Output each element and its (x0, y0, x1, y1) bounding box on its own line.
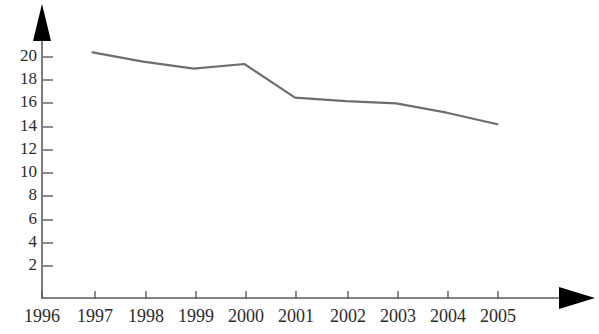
y-tick-label: 12 (20, 139, 37, 158)
chart-canvas: 20 18 16 14 12 10 8 6 4 2 1996 1 (0, 0, 599, 334)
x-tick-label: 2001 (278, 306, 314, 326)
x-tick-label: 2004 (430, 306, 466, 326)
y-tick-label: 4 (29, 232, 38, 251)
x-tick-label: 1999 (178, 306, 214, 326)
x-tick-label: 1998 (128, 306, 164, 326)
y-tick-label: 2 (29, 255, 38, 274)
x-tick-label: 2003 (380, 306, 416, 326)
y-axis-arrow-icon (33, 4, 51, 41)
y-axis-ticks (43, 57, 53, 266)
y-tick-label: 10 (20, 162, 37, 181)
line-chart: 20 18 16 14 12 10 8 6 4 2 1996 1 (0, 0, 599, 334)
x-tick-label: 1996 (24, 306, 60, 326)
x-tick-label: 1997 (77, 306, 113, 326)
data-line-series-1 (93, 52, 498, 124)
y-axis-tick-labels: 20 18 16 14 12 10 8 6 4 2 (20, 46, 38, 274)
y-tick-label: 16 (20, 92, 37, 111)
y-tick-label: 20 (20, 46, 37, 65)
y-tick-label: 6 (29, 209, 38, 228)
x-tick-label: 2005 (480, 306, 516, 326)
y-tick-label: 14 (20, 116, 38, 135)
y-tick-label: 8 (29, 185, 38, 204)
y-tick-label: 18 (20, 69, 37, 88)
x-axis-tick-labels: 1996 1997 1998 1999 2000 2001 2002 2003 … (24, 306, 516, 326)
x-axis-arrow-icon (559, 287, 595, 309)
x-tick-label: 2000 (228, 306, 264, 326)
x-tick-label: 2002 (330, 306, 366, 326)
